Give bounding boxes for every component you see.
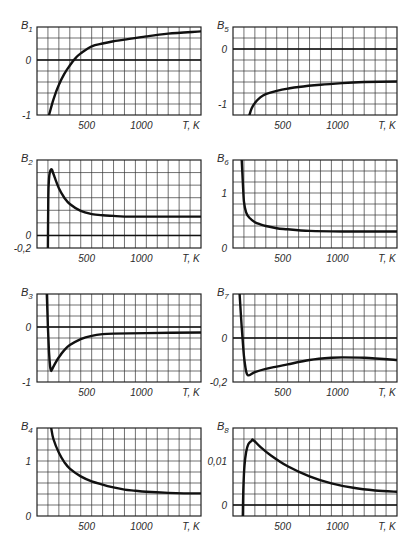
chart-panel-b2: B20-0,25001000T, K [14, 152, 201, 264]
x-axis-label: T, K [378, 387, 397, 398]
y-tick-label: -0,2 [14, 243, 32, 254]
x-tick-label: 500 [274, 387, 291, 398]
x-tick-label: 500 [78, 521, 95, 532]
panel-title: B7 [217, 286, 229, 301]
x-tick-label: 500 [274, 521, 291, 532]
x-tick-label: 1000 [130, 120, 153, 131]
x-tick-label: 500 [274, 253, 291, 264]
data-curve-b1 [49, 31, 201, 115]
y-tick-label: 0 [221, 500, 227, 511]
x-axis-label: T, K [378, 253, 397, 264]
x-tick-label: 1000 [326, 120, 349, 131]
chart-panel-b1: B10-15001000T, K [21, 19, 201, 131]
chart-panel-b4: B4015001000T, K [21, 420, 201, 532]
panel-title: B4 [21, 420, 33, 435]
y-tick-label: 0 [221, 243, 227, 254]
chart-panel-b6: B6015001000T, K [217, 152, 397, 264]
x-axis-label: T, K [182, 521, 201, 532]
y-tick-label: 1 [25, 456, 31, 467]
grid-lines [233, 160, 397, 248]
data-curve-b7 [240, 294, 397, 375]
y-tick-label: 0 [221, 44, 227, 55]
y-tick-label: 0 [25, 322, 31, 333]
y-tick-label: 0 [221, 333, 227, 344]
x-axis-label: T, K [378, 521, 397, 532]
figure-panel-grid: B10-15001000T, KB50-15001000T, KB20-0,25… [0, 0, 413, 546]
x-tick-label: 500 [78, 120, 95, 131]
panel-title: B6 [217, 152, 229, 167]
x-tick-label: 500 [78, 253, 95, 264]
x-tick-label: 1000 [130, 253, 153, 264]
x-axis-label: T, K [182, 120, 201, 131]
x-tick-label: 500 [78, 387, 95, 398]
x-axis-label: T, K [182, 387, 201, 398]
y-tick-label: 1 [221, 188, 227, 199]
x-axis-label: T, K [378, 120, 397, 131]
grid-lines [233, 27, 397, 115]
panel-title: B2 [21, 152, 33, 167]
y-tick-label: -1 [218, 99, 227, 110]
panel-title: B8 [217, 420, 229, 435]
y-tick-label: 0 [25, 511, 31, 522]
grid-lines [37, 294, 201, 382]
chart-panel-b3: B30-15001000T, K [21, 286, 201, 398]
x-tick-label: 1000 [130, 387, 153, 398]
x-tick-label: 1000 [326, 387, 349, 398]
panel-title: B5 [217, 19, 229, 34]
grid-lines [233, 428, 397, 516]
chart-panel-b7: B70-0,25001000T, K [210, 286, 397, 398]
x-tick-label: 1000 [326, 521, 349, 532]
chart-panel-b8: B800,015001000T, K [208, 420, 398, 532]
chart-panel-b5: B50-15001000T, K [217, 19, 397, 131]
y-tick-label: -1 [22, 110, 31, 121]
x-axis-label: T, K [182, 253, 201, 264]
y-tick-label: 0,01 [208, 456, 227, 467]
y-tick-label: 0 [25, 230, 31, 241]
y-tick-label: -1 [22, 377, 31, 388]
x-tick-label: 1000 [326, 253, 349, 264]
y-tick-label: 0 [25, 55, 31, 66]
panel-title: B3 [21, 286, 33, 301]
y-tick-label: -0,2 [210, 377, 228, 388]
x-tick-label: 1000 [130, 521, 153, 532]
grid-lines [37, 428, 201, 516]
panel-title: B1 [21, 19, 33, 34]
x-tick-label: 500 [274, 120, 291, 131]
